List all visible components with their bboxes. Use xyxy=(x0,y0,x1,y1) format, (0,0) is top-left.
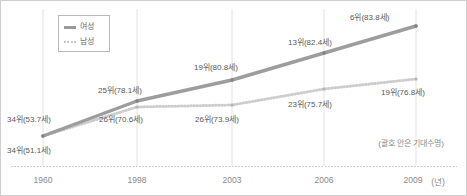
x-axis-unit-label: (년) xyxy=(431,175,445,187)
legend-label-female: 여성 xyxy=(80,22,94,32)
x-tick-2003: 2003 xyxy=(223,175,242,185)
legend-swatch-female-icon xyxy=(64,26,76,29)
annotation-male-2009: 19위(76.8세) xyxy=(381,88,425,98)
legend-label-male: 남성 xyxy=(80,37,94,47)
annotation-female-2003: 19위(80.8세) xyxy=(194,63,238,73)
annotation-male-1998: 26위(70.6세) xyxy=(99,115,143,125)
annotation-male-1960: 34위(51.1세) xyxy=(7,146,51,156)
annotation-female-1960: 34위(53.7세) xyxy=(7,115,51,125)
annotation-female-1998: 25위(78.1세) xyxy=(98,86,142,96)
x-tick-1998: 1998 xyxy=(128,175,147,185)
x-tick-2006: 2006 xyxy=(315,175,334,185)
legend-swatch-male-icon xyxy=(64,41,76,43)
annotation-female-2009: 6위(83.8세) xyxy=(350,13,389,23)
x-tick-1960: 1960 xyxy=(34,175,53,185)
legend: 여성 남성 xyxy=(58,15,110,52)
legend-item-male: 남성 xyxy=(64,35,109,49)
annotation-female-2006: 13위(82.4세) xyxy=(288,38,332,48)
footnote-note: (괄호 안은 기대수명) xyxy=(378,137,444,148)
legend-item-female: 여성 xyxy=(64,20,109,34)
annotation-male-2006: 23위(75.7세) xyxy=(288,100,332,110)
chart-figure: 여성 남성 34위(53.7세) 34위(51.1세) 25위(78.1세) 2… xyxy=(0,0,467,196)
annotation-male-2003: 26위(73.9세) xyxy=(195,115,239,125)
x-tick-2009: 2009 xyxy=(404,175,423,185)
